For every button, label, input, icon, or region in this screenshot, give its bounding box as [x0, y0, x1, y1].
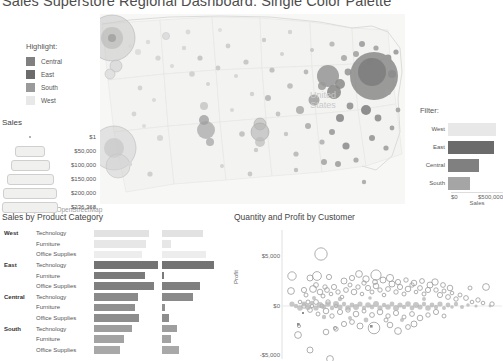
highlight-legend-item-west[interactable]: West: [26, 94, 62, 107]
filter-axis: $0 $500,000 Sales: [451, 192, 503, 206]
profit-bar[interactable]: [162, 240, 171, 248]
color-swatch-west: [26, 96, 35, 105]
scatter-points-filled: [289, 296, 491, 322]
table-row[interactable]: East Technology: [0, 260, 232, 271]
scatter-plot-area[interactable]: Profit $5,000 $0 -$5,000: [232, 228, 503, 361]
scatter-y-axis-label: Profit: [233, 270, 239, 284]
table-row[interactable]: West Technology: [0, 228, 232, 239]
profit-bar[interactable]: [162, 282, 200, 290]
sales-bar[interactable]: [94, 335, 124, 343]
sales-bar[interactable]: [94, 251, 142, 259]
table-row[interactable]: Furniture: [0, 334, 232, 345]
profit-bar[interactable]: [162, 293, 193, 301]
size-legend-label: $50,000: [58, 148, 98, 154]
sales-bar-cell: [94, 293, 158, 301]
sales-bar[interactable]: [94, 346, 120, 354]
table-row[interactable]: Office Supplies: [0, 249, 232, 260]
profit-bar[interactable]: [162, 272, 164, 280]
row-category-label: Furniture: [36, 336, 94, 342]
sales-bar[interactable]: [94, 272, 145, 280]
size-glyph-wrap: [2, 174, 58, 185]
sales-bar-cell: [94, 314, 158, 322]
dashboard-root: Sales Superstore Regional Dashboard: Sin…: [0, 0, 503, 361]
sales-bar[interactable]: [94, 314, 139, 322]
filter-bar[interactable]: [448, 141, 494, 154]
table-row[interactable]: Furniture: [0, 302, 232, 313]
size-shape-glyph: [15, 146, 45, 157]
filter-bar[interactable]: [448, 177, 470, 190]
sales-bar[interactable]: [94, 304, 135, 312]
filter-axis-tick-min: $0: [451, 194, 458, 200]
size-legend-title: Sales: [2, 118, 98, 127]
row-category-label: Office Supplies: [36, 347, 94, 353]
filter-row-south[interactable]: South: [416, 174, 496, 192]
table-row[interactable]: Office Supplies: [0, 281, 232, 292]
highlight-legend-item-central[interactable]: Central: [26, 55, 62, 68]
size-legend-label: $150,000: [58, 176, 98, 182]
row-category-label: Technology: [36, 262, 94, 268]
page-title: Sales Superstore Regional Dashboard: Sin…: [2, 0, 391, 9]
profit-bar[interactable]: [162, 261, 214, 269]
sales-bar[interactable]: [94, 293, 138, 301]
row-region-label: South: [0, 326, 36, 332]
filter-row-central[interactable]: Central: [416, 156, 496, 174]
profit-bar[interactable]: [162, 251, 206, 259]
sales-bar-cell: [94, 304, 158, 312]
highlight-legend-label: Central: [41, 58, 62, 65]
profit-bar-cell: [162, 304, 226, 312]
highlight-legend-item-south[interactable]: South: [26, 81, 62, 94]
sales-bar-cell: [94, 346, 158, 354]
row-category-label: Technology: [36, 230, 94, 236]
sales-bar-cell: [94, 240, 158, 248]
highlight-legend-label: South: [41, 84, 58, 91]
profit-bar-cell: [162, 325, 226, 333]
sales-by-product-category-rows: West Technology Furniture Office Supplie…: [0, 228, 232, 355]
color-swatch-central: [26, 57, 35, 66]
regional-sales-map[interactable]: United States: [100, 14, 405, 204]
table-row[interactable]: Central Technology: [0, 292, 232, 303]
profit-bar-cell: [162, 346, 226, 354]
size-legend-item: $100,000: [2, 158, 98, 172]
profit-bar[interactable]: [162, 346, 179, 354]
sales-bar[interactable]: [94, 261, 158, 269]
row-category-label: Office Supplies: [36, 283, 94, 289]
table-row[interactable]: Office Supplies: [0, 345, 232, 356]
filter-row-label: West: [416, 126, 448, 132]
profit-bar-cell: [162, 314, 226, 322]
sales-bar-cell: [94, 325, 158, 333]
profit-bar[interactable]: [162, 230, 203, 238]
map-svg: [100, 14, 405, 204]
table-row[interactable]: South Technology: [0, 323, 232, 334]
filter-bar[interactable]: [448, 123, 496, 136]
table-row[interactable]: Office Supplies: [0, 313, 232, 324]
sales-bar[interactable]: [94, 325, 132, 333]
profit-bar-cell: [162, 240, 226, 248]
filter-panel: Filter: West East Central South: [416, 106, 503, 218]
sales-bar[interactable]: [94, 282, 154, 290]
scatter-svg: [280, 228, 503, 361]
sales-bar[interactable]: [94, 240, 146, 248]
profit-bar[interactable]: [162, 304, 165, 312]
profit-bar-cell: [162, 230, 226, 238]
filter-row-label: South: [416, 180, 448, 186]
highlight-legend-item-east[interactable]: East: [26, 68, 62, 81]
scatter-points-dark: [297, 312, 373, 328]
profit-bar[interactable]: [162, 314, 169, 322]
filter-row-east[interactable]: East: [416, 138, 496, 156]
profit-bar-cell: [162, 293, 226, 301]
size-legend-label: $200,000: [58, 190, 98, 196]
table-row[interactable]: Furniture: [0, 239, 232, 250]
filter-title: Filter:: [420, 106, 503, 115]
filter-bar[interactable]: [448, 159, 479, 172]
color-swatch-south: [26, 83, 35, 92]
scatter-y-tick: $5,000: [262, 253, 280, 259]
sales-bar[interactable]: [94, 230, 149, 238]
highlight-legend: Highlight: Central East South West: [26, 42, 62, 107]
filter-row-west[interactable]: West: [416, 120, 496, 138]
row-category-label: Furniture: [36, 304, 94, 310]
highlight-legend-title: Highlight:: [26, 42, 62, 51]
profit-bar[interactable]: [162, 335, 171, 343]
table-row[interactable]: Furniture: [0, 270, 232, 281]
profit-bar[interactable]: [162, 325, 177, 333]
size-legend-item: $150,000: [2, 172, 98, 186]
